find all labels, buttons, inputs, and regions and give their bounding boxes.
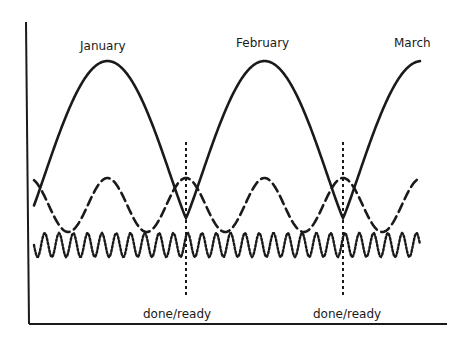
- dotted-curve: [34, 233, 420, 257]
- period-label-january: January: [79, 39, 126, 53]
- cycle-diagram: January February March done/ready done/r…: [0, 0, 469, 355]
- dashed-curve: [34, 178, 420, 232]
- curves-group: [34, 61, 420, 257]
- marker-label-2: done/ready: [313, 307, 381, 321]
- period-label-march: March: [394, 36, 431, 50]
- y-axis: [26, 22, 29, 324]
- solid-curve: [34, 61, 420, 218]
- period-label-february: February: [236, 36, 289, 50]
- marker-label-1: done/ready: [143, 307, 211, 321]
